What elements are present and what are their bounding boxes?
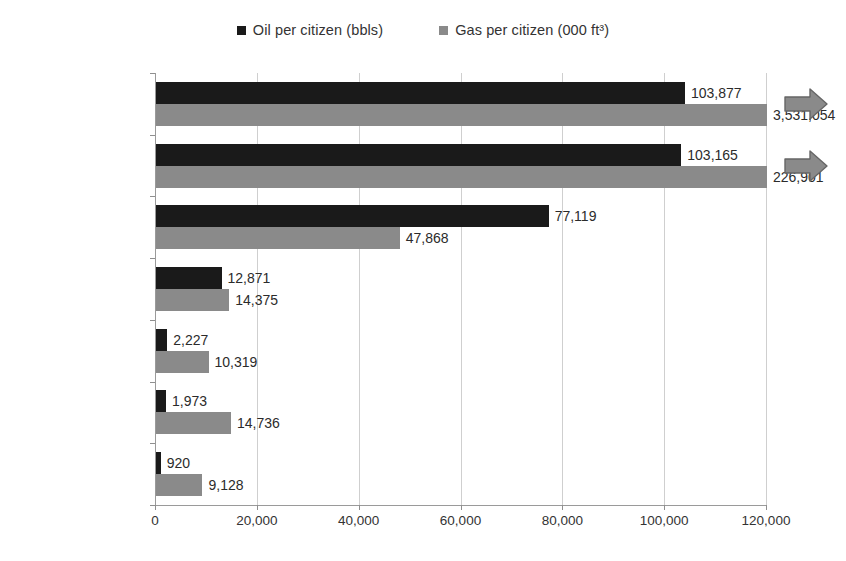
x-axis-tick [461, 505, 462, 510]
x-axis-tick [562, 505, 563, 510]
gridline [461, 73, 462, 505]
x-axis-tick [257, 505, 258, 510]
bar-value-label: 103,165 [687, 144, 738, 166]
bar-value-label: 2,227 [173, 329, 208, 351]
x-axis-tick [155, 505, 156, 510]
legend-label-gas: Gas per citizen (000 ft³) [455, 22, 609, 38]
y-axis-tick [150, 135, 155, 136]
y-axis-tick [150, 258, 155, 259]
bar-value-label: 77,119 [555, 205, 597, 227]
overflow-arrow-icon [784, 149, 828, 183]
gridline [664, 73, 665, 505]
legend-entry-gas: Gas per citizen (000 ft³) [439, 22, 609, 38]
bar-value-label: 10,319 [215, 351, 258, 373]
y-axis-tick [150, 505, 155, 506]
y-axis-tick [150, 196, 155, 197]
bar [156, 144, 681, 166]
bar [156, 452, 161, 474]
x-axis-tick-label: 0 [151, 513, 159, 528]
bar-value-label: 9,128 [208, 474, 243, 496]
gridline [359, 73, 360, 505]
x-axis-tick [664, 505, 665, 510]
legend-swatch-oil-icon [237, 26, 246, 35]
y-axis-tick [150, 73, 155, 74]
bar [156, 351, 209, 373]
gridline [766, 73, 767, 505]
y-axis-tick [150, 382, 155, 383]
bar-value-label: 103,877 [691, 82, 742, 104]
x-axis-tick [766, 505, 767, 510]
bar [156, 267, 222, 289]
x-axis-tick-label: 60,000 [440, 513, 481, 528]
bar [156, 166, 767, 188]
bar [156, 205, 549, 227]
bar [156, 412, 231, 434]
y-axis-tick [150, 443, 155, 444]
bar [156, 289, 229, 311]
bar-chart: Oil per citizen (bbls) Gas per citizen (… [0, 0, 846, 561]
bar-value-label: 920 [167, 452, 190, 474]
x-axis-tick-label: 120,000 [742, 513, 791, 528]
x-axis-tick-label: 100,000 [640, 513, 689, 528]
bar [156, 82, 685, 104]
bar-value-label: 14,736 [237, 412, 280, 434]
plot-area: 103,8773,531,054103,165226,90177,11947,8… [155, 73, 766, 505]
bar [156, 227, 400, 249]
bar-value-label: 1,973 [172, 390, 207, 412]
chart-legend: Oil per citizen (bbls) Gas per citizen (… [0, 22, 846, 38]
bar [156, 474, 202, 496]
legend-swatch-gas-icon [439, 26, 448, 35]
gridline [562, 73, 563, 505]
bar-value-label: 14,375 [235, 289, 278, 311]
x-axis-tick-label: 40,000 [338, 513, 379, 528]
bar-value-label: 47,868 [406, 227, 449, 249]
overflow-arrow-icon [784, 87, 828, 121]
bar [156, 390, 166, 412]
x-axis-tick-label: 20,000 [236, 513, 277, 528]
x-axis-tick-label: 80,000 [542, 513, 583, 528]
bar [156, 104, 767, 126]
legend-label-oil: Oil per citizen (bbls) [253, 22, 383, 38]
bar [156, 329, 167, 351]
legend-entry-oil: Oil per citizen (bbls) [237, 22, 383, 38]
y-axis-tick [150, 320, 155, 321]
x-axis-tick [359, 505, 360, 510]
bar-value-label: 12,871 [228, 267, 271, 289]
